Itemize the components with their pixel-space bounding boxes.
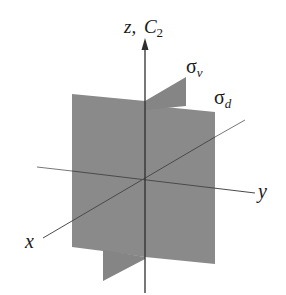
y-axis-back-line bbox=[37, 167, 72, 171]
sigma-v-plane bbox=[145, 77, 186, 110]
sigma-d-label: σd bbox=[214, 86, 232, 111]
x-axis-label: x bbox=[24, 230, 34, 252]
y-axis-label: y bbox=[256, 180, 267, 203]
symmetry-diagram: z, C2 σv σd y x bbox=[0, 0, 286, 295]
x-axis-back-line bbox=[215, 120, 245, 137]
z-axis-arrowhead-icon bbox=[142, 38, 149, 50]
z-axis-label: z, C2 bbox=[123, 16, 163, 40]
sigma-v-label: σv bbox=[186, 55, 203, 80]
